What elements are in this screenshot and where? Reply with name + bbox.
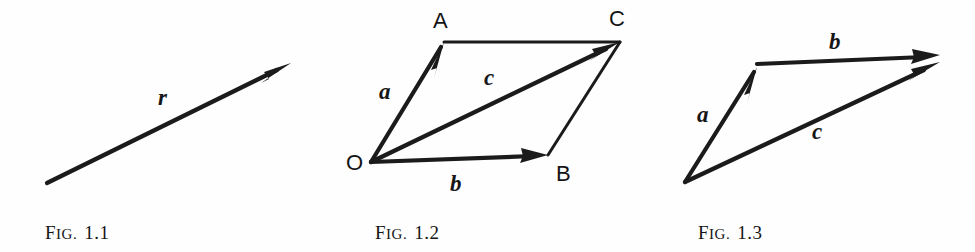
figure-1-3: a b c FIG.1.3 <box>660 0 975 252</box>
vector-label-c: c <box>812 120 822 143</box>
vector-label-b: b <box>829 30 841 53</box>
figure-1-3-caption: FIG.1.3 <box>698 222 762 244</box>
figure-plate: r FIG.1.1 <box>0 0 975 252</box>
caption-lead: F <box>698 222 709 243</box>
vector-b <box>757 49 940 64</box>
caption-number: 1.3 <box>737 222 762 243</box>
vector-label-a: a <box>697 103 709 126</box>
caption-small-caps: IG. <box>709 226 730 242</box>
